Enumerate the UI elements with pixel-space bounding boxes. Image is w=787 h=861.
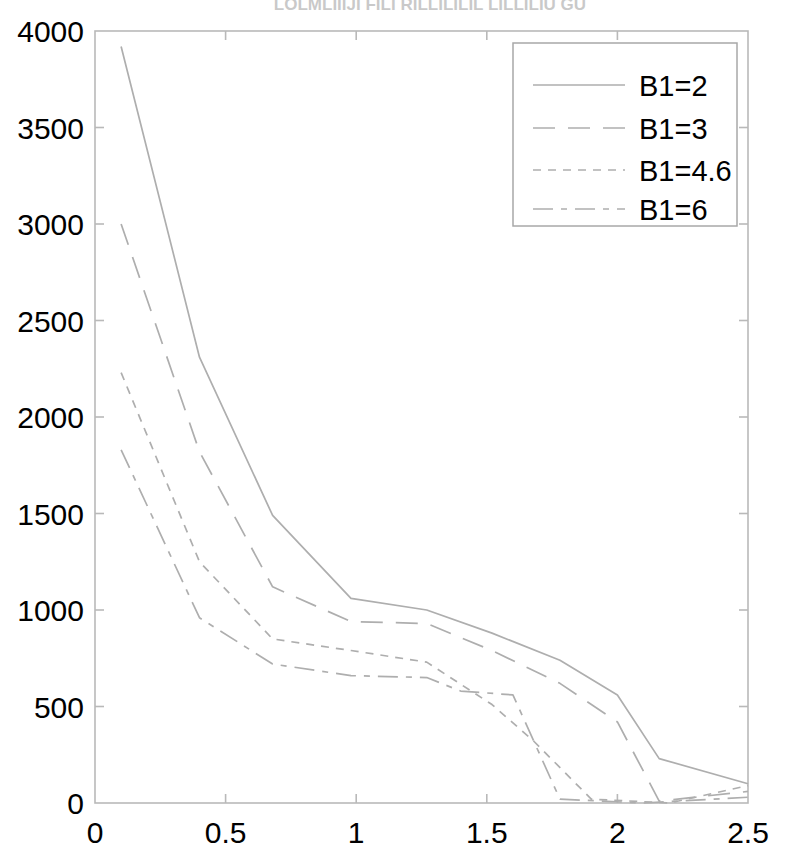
y-tick-label: 0 xyxy=(67,787,84,820)
legend-label: B1=4.6 xyxy=(639,155,732,187)
x-tick-label: 2.5 xyxy=(727,816,769,849)
y-tick-label: 1500 xyxy=(17,498,84,531)
y-tick-label: 3500 xyxy=(17,112,84,145)
x-tick-label: 1 xyxy=(348,816,365,849)
y-tick-label: 4000 xyxy=(17,15,84,48)
legend-label: B1=3 xyxy=(639,113,708,145)
chart-legend[interactable]: B1=2B1=3B1=4.6B1=6 xyxy=(513,43,737,226)
y-tick-label: 2500 xyxy=(17,305,84,338)
clipped-title: LOLMLIIIJI FILI RILLILILIL LILLILIU GU xyxy=(274,0,586,14)
y-tick-label: 2000 xyxy=(17,401,84,434)
line-chart-figure: LOLMLIIIJI FILI RILLILILIL LILLILIU GU 0… xyxy=(0,0,787,861)
x-tick-label: 1.5 xyxy=(466,816,508,849)
y-tick-label: 500 xyxy=(34,691,84,724)
legend-label: B1=6 xyxy=(639,194,708,226)
x-tick-label: 0 xyxy=(87,816,104,849)
x-tick-label: 2 xyxy=(609,816,626,849)
y-tick-label: 3000 xyxy=(17,208,84,241)
x-tick-label: 0.5 xyxy=(205,816,247,849)
legend-label: B1=2 xyxy=(639,70,708,102)
y-tick-label: 1000 xyxy=(17,594,84,627)
